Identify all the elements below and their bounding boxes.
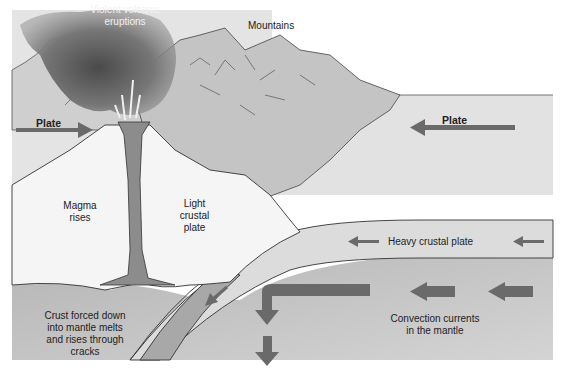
label-convection: Convection currents in the mantle xyxy=(385,313,485,337)
label-heavy-plate: Heavy crustal plate xyxy=(388,236,473,248)
label-plate-left: Plate xyxy=(36,117,61,129)
label-crust-melts: Crust forced down into mantle melts and … xyxy=(35,310,135,358)
label-plate-right: Plate xyxy=(442,114,467,126)
label-mountains: Mountains xyxy=(248,20,294,32)
label-magma: Magma rises xyxy=(55,200,105,224)
label-light-plate: Light crustal plate xyxy=(172,198,217,234)
label-eruptions: Violent volcanic eruptions xyxy=(70,4,180,28)
